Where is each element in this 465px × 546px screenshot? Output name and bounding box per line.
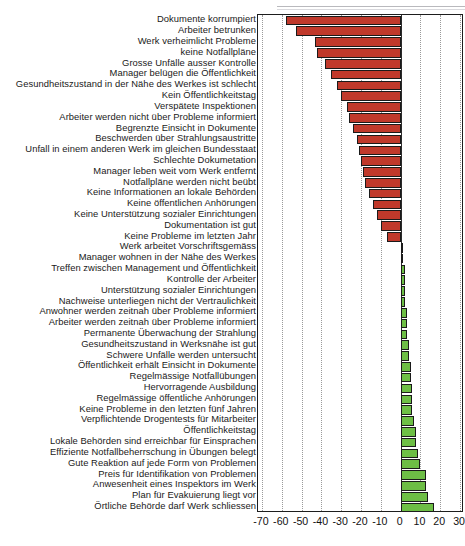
bar [286, 16, 401, 26]
bar [401, 427, 417, 437]
bar [353, 124, 401, 134]
category-label: Anwohner werden zeitnah über Probleme in… [39, 306, 256, 316]
bar [401, 405, 413, 415]
x-tick-label: 10 [414, 515, 426, 527]
bar [401, 459, 421, 469]
category-label: Notfallpläne werden nicht beübt [123, 177, 256, 187]
category-label: Örtliche Behörde darf Werk schliessen [94, 501, 256, 511]
bar [401, 340, 409, 350]
x-tick-label: 0 [397, 515, 403, 527]
bar [337, 81, 400, 91]
category-label: Manager belügen die Öffentlichkeit [110, 68, 256, 78]
category-label: Keine Probleme in den letzten fünf Jahre… [79, 404, 256, 414]
bar [369, 189, 401, 199]
category-label: Gesundheitszustand in der Nähe des Werke… [16, 79, 256, 89]
bar [401, 254, 403, 264]
x-tick-label: -10 [372, 515, 387, 527]
category-label: Keine öffentlichen Anhörungen [127, 198, 256, 208]
bar [401, 503, 435, 512]
top-divider-line-secondary [277, 9, 465, 10]
x-axis: -70-60-50-40-30-20-100102030 [257, 513, 463, 535]
x-tick-label: -20 [352, 515, 367, 527]
category-label: keine Notfallpläne [181, 47, 256, 57]
category-label: Öffentlichkeit erhält Einsicht in Dokume… [78, 360, 256, 370]
category-label: Keine Informationen an lokale Behörden [87, 187, 256, 197]
bar [401, 395, 413, 405]
category-label: Preis für Identifikation von Problemen [98, 469, 256, 479]
x-tick-label: -40 [313, 515, 328, 527]
category-label: Begrenzte Einsicht in Dokumente [116, 123, 256, 133]
category-label: Grosse Unfälle ausser Kontrolle [122, 58, 256, 68]
x-tick-label: -60 [273, 515, 288, 527]
bar [401, 351, 409, 361]
category-label: Regelmässige Notfallübungen [130, 371, 256, 381]
category-label: Keine Unterstützung sozialer Einrichtung… [74, 209, 256, 219]
x-tick-label: 30 [453, 515, 465, 527]
category-label: Kein Öffentlichkeitstag [162, 90, 256, 100]
category-label: Dokumentation ist gut [164, 220, 256, 230]
bar [381, 221, 401, 231]
x-tick-label: -70 [253, 515, 268, 527]
category-label: Hervorragende Ausbildung [144, 382, 256, 392]
bar [349, 113, 401, 123]
category-label: Manager leben weit vom Werk entfernt [93, 166, 256, 176]
bar-chart: Dokumente korrumpiertArbeiter betrunkenW… [0, 0, 465, 546]
bar [401, 297, 405, 307]
bar [401, 416, 415, 426]
category-label: Lokale Behörden sind erreichbar für Eins… [50, 436, 256, 446]
top-divider-line [277, 6, 465, 7]
bar [363, 167, 401, 177]
bar [401, 438, 417, 448]
category-label: Arbeiter betrunken [178, 25, 256, 35]
category-label: Arbeiter werden nicht über Probleme info… [59, 112, 256, 122]
bar [401, 330, 407, 340]
category-label: Schlechte Dokumetation [153, 155, 256, 165]
category-label: Anwesenheit eines Inspektors im Werk [93, 479, 256, 489]
x-tick-label: -50 [293, 515, 308, 527]
category-label: Werk arbeitet Vorschriftsgemäss [120, 241, 256, 251]
category-label: Arbeiter werden zeitnah über Probleme in… [49, 317, 256, 327]
x-tick-label: 20 [433, 515, 445, 527]
bar [347, 102, 400, 112]
category-label: Regelmässige öffentliche Anhörungen [97, 393, 257, 403]
bar [401, 373, 411, 383]
category-label: Gesundheitszustand in Werksnähe ist gut [81, 339, 256, 349]
category-label: Beschwerden über Strahlungsaustritte [95, 133, 256, 143]
category-label: Manager wohnen in der Nähe des Werkes [79, 252, 256, 262]
category-label: Treffen zwischen Management und Öffentli… [51, 263, 256, 273]
bar [331, 70, 400, 80]
category-label: Nachweise unterliegen nicht der Vertraul… [59, 296, 256, 306]
bar [325, 59, 400, 69]
plot-area [257, 14, 463, 512]
bar [401, 481, 427, 491]
category-label: Keine Probleme im letzten Jahr [124, 231, 256, 241]
category-label: Gute Reaktion auf jede Form von Probleme… [68, 458, 256, 468]
category-label: Unfall in einem anderen Werk im gleichen… [25, 144, 256, 154]
category-label: Dokumente korrumpiert [157, 14, 256, 24]
category-label: Plan für Evakuierung liegt vor [132, 490, 256, 500]
category-label: Kontrolle der Arbeiter [167, 274, 256, 284]
category-label: Permanente Überwachung der Strahlung [84, 328, 256, 338]
bar [387, 232, 401, 242]
bar [373, 200, 401, 210]
category-label: Verspätete Inspektionen [154, 101, 256, 111]
bar [401, 449, 419, 459]
bar [401, 470, 427, 480]
bar [317, 48, 400, 58]
category-label: Öffentlichkeitstag [183, 425, 256, 435]
bar [315, 37, 400, 47]
bar [357, 135, 401, 145]
bar [401, 492, 429, 502]
bar [401, 265, 405, 275]
bar [296, 26, 401, 36]
category-label: Verpflichtende Drogentests für Mitarbeit… [81, 414, 256, 424]
bar [401, 275, 405, 285]
bars-group [258, 15, 462, 511]
bar [401, 319, 407, 329]
bar [361, 156, 401, 166]
bar [401, 362, 411, 372]
category-label: Werk verheimlicht Probleme [138, 36, 256, 46]
bar [341, 91, 400, 101]
bar [401, 286, 405, 296]
bar [359, 146, 401, 156]
